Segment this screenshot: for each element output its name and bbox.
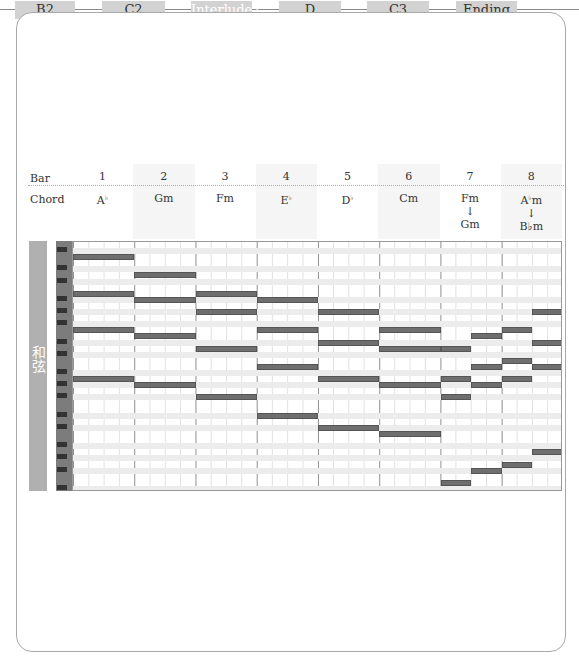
note-block xyxy=(318,309,379,315)
black-key-row xyxy=(73,352,561,358)
black-key-row xyxy=(73,486,561,491)
chord-name: A♭m↓B♭m xyxy=(501,192,562,233)
note-block xyxy=(257,297,318,303)
note-block xyxy=(379,382,440,388)
bar-number: 5 xyxy=(317,170,378,183)
black-key xyxy=(57,454,67,459)
chord-name: Gm xyxy=(133,192,194,205)
note-block xyxy=(441,480,472,486)
note-block xyxy=(196,309,257,315)
note-block xyxy=(532,449,562,455)
note-block xyxy=(196,394,257,400)
chord-name: A♭ xyxy=(72,192,133,207)
note-block xyxy=(471,364,502,370)
black-key xyxy=(57,247,67,252)
chord-name: Fm xyxy=(195,192,256,205)
note-block xyxy=(502,376,533,382)
note-block xyxy=(134,382,195,388)
bar-number: 7 xyxy=(440,170,501,183)
header-divider xyxy=(28,185,564,186)
black-key-row xyxy=(73,279,561,285)
note-block xyxy=(502,358,533,364)
note-block xyxy=(134,297,195,303)
black-key-row xyxy=(73,370,561,376)
black-key xyxy=(57,351,67,356)
note-block xyxy=(441,376,472,382)
black-key xyxy=(57,308,67,313)
black-key-row xyxy=(73,248,561,254)
black-key xyxy=(57,265,67,270)
black-key-row xyxy=(73,340,561,346)
black-key xyxy=(57,296,67,301)
note-block xyxy=(502,462,533,468)
black-key xyxy=(57,393,67,398)
black-key xyxy=(57,339,67,344)
note-block xyxy=(471,382,502,388)
chord-name: D♭ xyxy=(317,192,378,207)
note-block xyxy=(379,327,440,333)
piano-keyboard xyxy=(56,241,72,491)
note-block xyxy=(73,291,134,297)
black-key xyxy=(57,467,67,472)
note-block xyxy=(471,333,502,339)
bar-number: 6 xyxy=(378,170,439,183)
chord-side-label: 和弦 xyxy=(29,241,47,491)
black-key-row xyxy=(73,394,561,400)
note-block xyxy=(73,254,134,260)
bar-number: 2 xyxy=(133,170,194,183)
bar-number: 4 xyxy=(256,170,317,183)
chord-name: E♭ xyxy=(256,192,317,207)
chord-name: Fm↓Gm xyxy=(440,192,501,231)
chord-row-label: Chord xyxy=(30,193,64,206)
black-key xyxy=(57,424,67,429)
note-block xyxy=(73,376,134,382)
note-block xyxy=(257,327,318,333)
note-block xyxy=(441,346,472,352)
note-block xyxy=(196,291,257,297)
note-block xyxy=(379,431,440,437)
note-block xyxy=(196,346,257,352)
note-block xyxy=(379,346,440,352)
note-block xyxy=(134,333,195,339)
note-block xyxy=(441,394,472,400)
note-block xyxy=(532,309,562,315)
note-block xyxy=(318,376,379,382)
note-block xyxy=(318,425,379,431)
note-block xyxy=(318,340,379,346)
bar-number: 3 xyxy=(195,170,256,183)
black-key xyxy=(57,369,67,374)
note-block xyxy=(134,272,195,278)
black-key-row xyxy=(73,425,561,431)
black-key-row xyxy=(73,443,561,449)
black-key xyxy=(57,381,67,386)
black-key-row xyxy=(73,455,561,461)
bar-row-label: Bar xyxy=(30,172,50,185)
black-key-row xyxy=(73,309,561,315)
bar-number: 1 xyxy=(72,170,133,183)
black-key-row xyxy=(73,266,561,272)
black-key-row xyxy=(73,321,561,327)
note-block xyxy=(257,413,318,419)
note-block xyxy=(73,327,134,333)
note-block xyxy=(471,468,502,474)
bar-number: 8 xyxy=(501,170,562,183)
note-block xyxy=(532,340,562,346)
black-key xyxy=(57,320,67,325)
piano-roll-grid xyxy=(72,241,562,491)
black-key xyxy=(57,278,67,283)
black-key xyxy=(57,442,67,447)
note-block xyxy=(502,327,533,333)
black-key xyxy=(57,412,67,417)
note-block xyxy=(257,364,318,370)
note-block xyxy=(532,364,562,370)
chord-name: Cm xyxy=(378,192,439,205)
black-key xyxy=(57,485,67,490)
